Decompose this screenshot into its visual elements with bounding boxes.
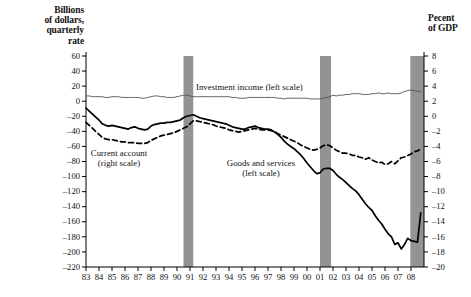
left-axis-title: Billions of dollars, quarterly rate [0, 5, 84, 46]
right-axis-tick-label: –12 [432, 202, 471, 211]
left-axis-tick-label: –200 [30, 248, 80, 257]
right-axis-tick-label: –16 [432, 233, 471, 242]
series-label-investment-income: Investment income (left scale) [196, 82, 303, 92]
right-axis-tick-label: 8 [432, 52, 471, 61]
x-axis-tick-label: 08 [402, 273, 420, 282]
right-axis-tick-label: –18 [432, 248, 471, 257]
right-axis-tick-label: 4 [432, 82, 471, 91]
recession-band-0 [184, 56, 194, 267]
left-axis-tick-label: 40 [30, 67, 80, 76]
left-axis-title-line-1: Billions [0, 5, 84, 15]
right-axis-tick-label: 2 [432, 97, 471, 106]
left-axis-tick-label: –20 [30, 112, 80, 121]
right-axis-title-line-1: Pecent [428, 13, 471, 23]
left-axis-title-line-4: rate [0, 36, 84, 46]
series-label-goods-services-line-2: (left scale) [196, 168, 326, 178]
left-axis-tick-label: –80 [30, 157, 80, 166]
right-axis-title: Pecent of GDP [428, 13, 471, 33]
left-axis-tick-label: 0 [30, 97, 80, 106]
left-axis-tick-label: –60 [30, 142, 80, 151]
series-label-goods-services: Goods and services (left scale) [196, 158, 326, 178]
left-axis-tick-label: –160 [30, 217, 80, 226]
left-axis-tick-label: –180 [30, 233, 80, 242]
series-label-investment-income-text: Investment income (left scale) [196, 82, 303, 92]
right-axis-tick-label: –10 [432, 187, 471, 196]
left-axis-tick-label: –100 [30, 172, 80, 181]
left-axis-title-line-2: of dollars, [0, 15, 84, 25]
recession-band-2 [410, 56, 424, 267]
source-note [4, 289, 304, 297]
right-axis-tick-label: 6 [432, 67, 471, 76]
left-axis-tick-label: –140 [30, 202, 80, 211]
right-axis-tick-label: –4 [432, 142, 471, 151]
chart-container: Billions of dollars, quarterly rate Pece… [0, 0, 471, 297]
right-axis-tick-label: –2 [432, 127, 471, 136]
series-label-goods-services-line-1: Goods and services [196, 158, 326, 168]
left-axis-tick-label: –220 [30, 263, 80, 272]
right-axis-tick-label: –14 [432, 217, 471, 226]
left-axis-title-line-3: quarterly [0, 25, 84, 35]
right-axis-tick-label: –8 [432, 172, 471, 181]
right-axis-tick-label: –20 [432, 263, 471, 272]
left-axis-tick-label: 60 [30, 52, 80, 61]
left-axis-tick-label: –120 [30, 187, 80, 196]
left-axis-tick-label: 20 [30, 82, 80, 91]
right-axis-title-line-2: of GDP [428, 23, 471, 33]
left-axis-tick-label: –40 [30, 127, 80, 136]
right-axis-tick-label: 0 [432, 112, 471, 121]
right-axis-tick-label: –6 [432, 157, 471, 166]
